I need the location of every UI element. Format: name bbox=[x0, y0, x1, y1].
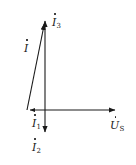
label-us-subscript: S bbox=[119, 125, 124, 133]
label-i2-subscript: 2 bbox=[37, 147, 41, 155]
label-i: I bbox=[24, 43, 28, 54]
label-i3-subscript: 3 bbox=[57, 22, 61, 30]
label-i2-glyph: I bbox=[32, 142, 36, 153]
vector-i-line bbox=[27, 24, 44, 110]
label-i2-symbol: I bbox=[32, 141, 36, 154]
label-i1-subscript: 1 bbox=[37, 123, 41, 131]
overdot-accent-i1 bbox=[34, 114, 36, 116]
label-i3-glyph: I bbox=[52, 17, 56, 28]
phasor-vectors-canvas bbox=[0, 0, 136, 165]
overdot-accent-i bbox=[26, 39, 28, 41]
overdot-accent-i2 bbox=[34, 138, 36, 140]
label-us: U S bbox=[110, 120, 124, 133]
label-us-symbol: U bbox=[110, 119, 119, 132]
label-i2: I 2 bbox=[32, 142, 41, 155]
phasor-diagram-figure: I 3 I I 1 I 2 U S bbox=[0, 0, 136, 165]
label-i3-symbol: I bbox=[52, 16, 56, 29]
label-i1: I 1 bbox=[32, 118, 41, 131]
label-us-glyph: U bbox=[110, 120, 119, 131]
overdot-accent-i3 bbox=[54, 13, 56, 15]
label-i3: I 3 bbox=[52, 17, 61, 30]
label-i-glyph: I bbox=[24, 43, 28, 54]
overdot-accent-us bbox=[115, 116, 117, 118]
label-i1-symbol: I bbox=[32, 117, 36, 130]
label-i1-glyph: I bbox=[32, 118, 36, 129]
label-i-symbol: I bbox=[24, 42, 28, 55]
